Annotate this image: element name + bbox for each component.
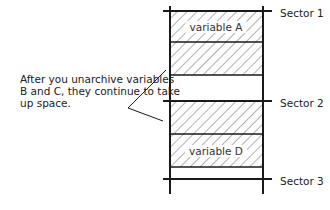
callout-note: After you unarchive variables B and C, t… (20, 73, 180, 109)
block-variable-b (170, 42, 263, 75)
callout-line-lower (128, 108, 163, 121)
variable-d-label: variable D (185, 145, 247, 157)
variable-a-label: variable A (186, 21, 247, 33)
sector-1-label: Sector 1 (280, 7, 324, 19)
sector-2-label: Sector 2 (280, 97, 324, 109)
sector-3-label: Sector 3 (280, 175, 324, 187)
block-variable-c (170, 101, 263, 134)
